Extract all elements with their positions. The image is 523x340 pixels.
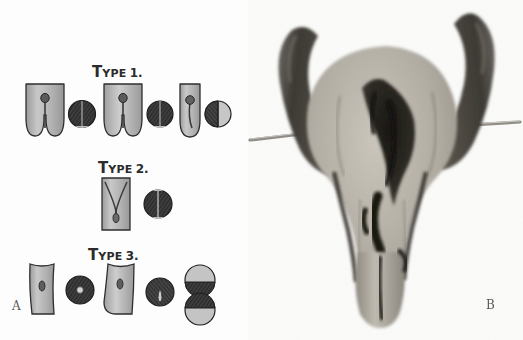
type1-c-longitudinal <box>180 84 200 137</box>
type-1-label-lead: T <box>92 63 102 81</box>
type1-a-section <box>69 101 96 129</box>
type3-b-longitudinal <box>104 264 134 314</box>
type-3-row <box>24 262 229 330</box>
type-2-row <box>96 178 186 236</box>
panel-b: B <box>248 0 523 340</box>
panel-letter-b: B <box>486 298 495 312</box>
panel-letter-a-text: A <box>12 299 21 313</box>
type-2-label: TYPE2. <box>98 158 149 177</box>
type-1-label-rest: YPE <box>102 67 126 80</box>
type-2-graphics <box>96 178 186 236</box>
type1-c-section <box>205 101 231 127</box>
panel-letter-b-text: B <box>486 298 495 312</box>
type3-c-section-pair <box>185 265 215 325</box>
type-3-label-number: 3. <box>126 249 139 263</box>
specimen-photograph <box>248 0 523 340</box>
type2-a-longitudinal <box>102 178 130 230</box>
type-1-label-number: 1. <box>130 66 143 80</box>
figure-container: A TYPE1. <box>0 0 523 340</box>
type-3-graphics <box>24 262 229 330</box>
type1-b-longitudinal <box>104 84 142 136</box>
type1-a-longitudinal <box>26 84 64 136</box>
panel-letter-a: A <box>12 299 21 313</box>
type2-a-section <box>144 190 172 220</box>
type-2-label-number: 2. <box>136 162 149 176</box>
type-1-label: TYPE1. <box>92 62 143 81</box>
type1-b-section <box>147 101 173 128</box>
type3-b-section <box>146 278 174 306</box>
type3-a-section <box>66 276 94 304</box>
type3-a-longitudinal <box>30 264 54 314</box>
type-1-row <box>22 84 232 152</box>
type-2-label-lead: T <box>98 159 108 177</box>
panel-a: A TYPE1. <box>0 0 248 340</box>
type-2-label-rest: YPE <box>108 163 132 176</box>
type-1-graphics <box>22 84 232 152</box>
